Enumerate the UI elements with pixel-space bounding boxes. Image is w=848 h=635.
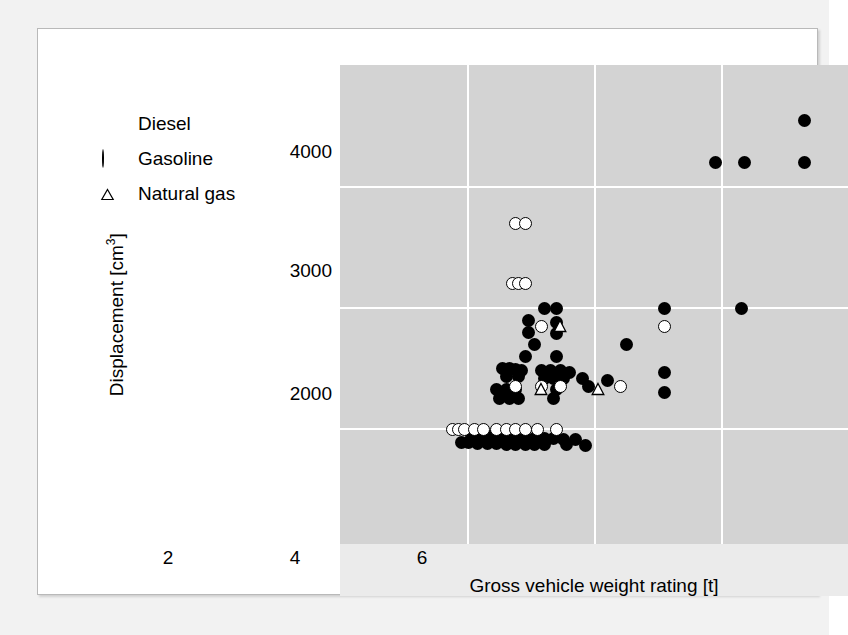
data-point-diesel [798, 156, 811, 169]
y-tick-2000: 2000 [290, 384, 332, 403]
data-point-diesel [579, 439, 592, 452]
data-point-gasoline [519, 277, 532, 290]
y-tick-3000: 3000 [290, 261, 332, 280]
data-point-diesel [550, 350, 563, 363]
filled-circle-icon [100, 115, 116, 131]
figure-card: Diesel Gasoline Natural gas 4000 3000 [37, 28, 818, 595]
y-axis-label-suffix: ] [106, 233, 127, 238]
data-point-gasoline [477, 423, 490, 436]
legend-label-natural-gas: Natural gas [138, 183, 235, 205]
open-circle-icon [100, 150, 116, 166]
data-point-gasoline [550, 423, 563, 436]
data-point-gasoline [535, 320, 548, 333]
data-point-diesel [658, 386, 671, 399]
data-point-diesel [658, 302, 671, 315]
data-point-diesel [620, 338, 633, 351]
data-point-gasoline [554, 380, 567, 393]
x-axis-label: Gross vehicle weight rating [t] [340, 575, 848, 597]
data-point-diesel [528, 338, 541, 351]
x-tick-2: 2 [148, 548, 188, 567]
data-point-diesel [538, 438, 551, 451]
y-tick-4000: 4000 [290, 142, 332, 161]
data-point-diesel [798, 114, 811, 127]
data-point-natural-gas [534, 382, 548, 396]
y-axis-label-exponent: 3 [104, 238, 118, 245]
data-point-gasoline [658, 320, 671, 333]
plot-panel [340, 65, 848, 544]
data-point-natural-gas [553, 319, 567, 333]
x-tick-6: 6 [402, 548, 442, 567]
y-axis-label: Displacement [cm3] [104, 175, 127, 455]
data-point-diesel [738, 156, 751, 169]
legend-label-diesel: Diesel [138, 113, 191, 135]
data-point-diesel [550, 302, 563, 315]
data-point-gasoline [614, 380, 627, 393]
data-point-gasoline [519, 217, 532, 230]
data-point-diesel [512, 392, 525, 405]
data-point-diesel [560, 438, 573, 451]
data-point-diesel [522, 314, 535, 327]
y-axis-ticks: 4000 3000 2000 [228, 29, 332, 596]
data-point-gasoline [519, 423, 532, 436]
data-point-gasoline [531, 423, 544, 436]
gridline-x-6 [721, 65, 723, 544]
data-point-diesel [519, 350, 532, 363]
data-point-natural-gas [591, 382, 605, 396]
data-point-diesel [538, 302, 551, 315]
y-axis-label-text: Displacement [cm [106, 245, 127, 396]
data-point-diesel [522, 326, 535, 339]
gridline-x-4 [594, 65, 596, 544]
data-point-diesel [735, 302, 748, 315]
data-point-diesel [658, 366, 671, 379]
gridline-x-2 [467, 65, 469, 544]
x-tick-4: 4 [275, 548, 315, 567]
legend-label-gasoline: Gasoline [138, 148, 213, 170]
data-point-diesel [547, 392, 560, 405]
